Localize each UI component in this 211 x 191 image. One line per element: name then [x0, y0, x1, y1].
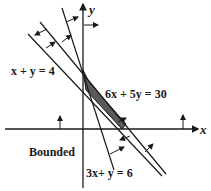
direction-arrow-icon	[46, 42, 55, 48]
label-6x-plus-5y-eq-30: 6x + 5y = 30	[105, 87, 167, 101]
y-axis-label: y	[87, 2, 95, 17]
label-x-plus-y-eq-4: x + y = 4	[11, 64, 55, 78]
lp-graph: y x x + y = 4 6x + 5y = 30 3x+ y = 6 Bou…	[0, 0, 211, 191]
x-axis-label: x	[199, 122, 207, 137]
direction-arrow-icon	[66, 17, 78, 22]
direction-arrow-icon	[145, 144, 153, 152]
direction-arrow-icon	[62, 35, 71, 42]
direction-arrow-icon	[110, 147, 124, 154]
label-3x-plus-y-eq-6: 3x+ y = 6	[86, 166, 133, 180]
direction-arrow-icon	[35, 29, 47, 35]
region-label: Bounded	[29, 145, 75, 159]
